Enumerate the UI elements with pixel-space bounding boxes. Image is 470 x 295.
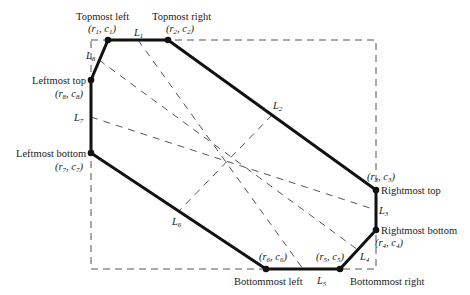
label-bottommost-right: Bottommost right xyxy=(350,276,424,287)
coord-2: (r2, c2) xyxy=(166,23,195,36)
diameter-L1-L5 xyxy=(138,40,303,269)
segment-L2: L2 xyxy=(272,100,283,113)
coord-5: (r5, c5) xyxy=(316,251,345,264)
label-bottommost-left: Bottommost left xyxy=(234,276,303,287)
coordinate-labels: (r1, c1) (r2, c2) (r3, c3) (r4, c4) (r5,… xyxy=(55,23,404,264)
segment-L4: L4 xyxy=(359,251,370,264)
label-rightmost-top: Rightmost top xyxy=(381,185,441,196)
label-leftmost-top: Leftmost top xyxy=(32,75,86,86)
segment-labels: L1 L2 L3 L4 L5 L6 L7 L8 xyxy=(73,27,389,288)
vertex-leftmost-top xyxy=(88,77,95,84)
segment-L6: L6 xyxy=(171,216,182,229)
diameter-L8-L4 xyxy=(99,60,358,250)
vertex-bottommost-right xyxy=(337,266,344,273)
diameter-L2-L6 xyxy=(179,115,272,211)
vertex-rightmost-bottom xyxy=(373,227,380,234)
label-rightmost-bottom: Rightmost bottom xyxy=(381,225,457,236)
vertex-bottommost-left xyxy=(263,266,270,273)
diameter-L7-L3 xyxy=(91,117,376,210)
label-topmost-left: Topmost left xyxy=(76,11,129,22)
label-topmost-right: Topmost right xyxy=(152,11,211,22)
segment-L1: L1 xyxy=(133,27,143,40)
vertex-topmost-left xyxy=(105,37,112,44)
vertex-leftmost-bottom xyxy=(88,150,95,157)
segment-L3: L3 xyxy=(378,205,389,218)
segment-L7: L7 xyxy=(73,112,84,125)
coord-4: (r4, c4) xyxy=(375,237,404,250)
octagon-diagram: Topmost left Topmost right Leftmost top … xyxy=(0,0,470,295)
coord-1: (r1, c1) xyxy=(88,23,117,36)
vertex-topmost-right xyxy=(165,37,172,44)
segment-L8: L8 xyxy=(85,50,96,63)
segment-L5: L5 xyxy=(316,275,327,288)
coord-7: (r7, c7) xyxy=(55,161,84,174)
coord-3: (r3, c3) xyxy=(367,171,396,184)
coord-8: (r8, c8) xyxy=(55,88,84,101)
label-leftmost-bottom: Leftmost bottom xyxy=(16,148,86,159)
vertex-rightmost-top xyxy=(373,187,380,194)
coord-6: (r6, c6) xyxy=(259,251,288,264)
diameter-lines xyxy=(91,40,376,269)
